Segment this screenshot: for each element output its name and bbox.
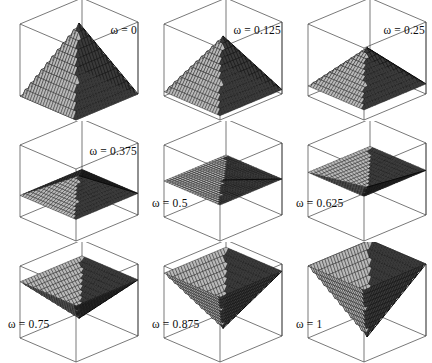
surface-mesh — [20, 23, 138, 120]
surface-plot — [288, 121, 432, 242]
surface-plot — [0, 121, 144, 242]
surface-plot — [0, 0, 144, 121]
surface-plot — [288, 0, 432, 121]
plot-panel: ω = 0.625 — [288, 121, 432, 242]
plot-panel: ω = 0.875 — [144, 242, 288, 363]
surface-plot — [144, 121, 288, 242]
panel-omega-label: ω = 0 — [110, 25, 137, 37]
surface-plot — [288, 242, 432, 363]
surface-plot — [144, 242, 288, 363]
plot-panel: ω = 0.75 — [0, 242, 144, 363]
panel-omega-label: ω = 0.5 — [152, 198, 188, 210]
plot-panel: ω = 0.5 — [144, 121, 288, 242]
plot-panel: ω = 0 — [0, 0, 144, 121]
panel-omega-label: ω = 0.375 — [90, 146, 137, 158]
plot-panel: ω = 0.375 — [0, 121, 144, 242]
surface-plot — [144, 0, 288, 121]
surface-mesh — [20, 256, 138, 318]
panel-omega-label: ω = 0.125 — [234, 25, 281, 37]
surface-plot — [0, 242, 144, 363]
panel-omega-label: ω = 0.25 — [383, 25, 425, 37]
panel-grid: ω = 0ω = 0.125ω = 0.25ω = 0.375ω = 0.5ω … — [0, 0, 432, 363]
panel-omega-label: ω = 1 — [296, 319, 323, 331]
plot-panel: ω = 0.125 — [144, 0, 288, 121]
surface-mesh — [308, 146, 426, 196]
surface-mesh — [308, 242, 426, 337]
panel-omega-label: ω = 0.75 — [8, 319, 50, 331]
panel-omega-label: ω = 0.625 — [296, 198, 343, 210]
surface-mesh — [308, 47, 426, 109]
plot-panel: ω = 0.25 — [288, 0, 432, 121]
surface-mesh — [20, 169, 138, 219]
plot-panel: ω = 1 — [288, 242, 432, 363]
panel-omega-label: ω = 0.875 — [152, 319, 199, 331]
